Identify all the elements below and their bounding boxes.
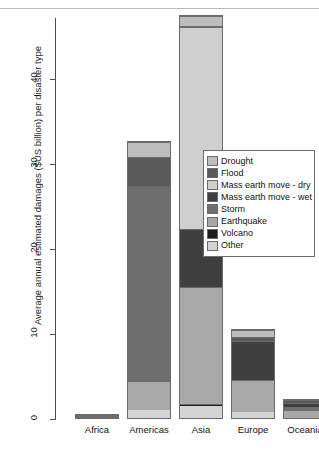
y-tick-label-20: 20: [28, 235, 39, 261]
legend-item-label: Drought: [221, 156, 253, 167]
legend-item-mass-earth-move-dry[interactable]: Mass earth move - dry: [207, 179, 311, 191]
legend-item-earthquake[interactable]: Earthquake: [207, 215, 311, 227]
legend-item-label: Mass earth move - dry: [221, 180, 311, 191]
bar-segment-asia-earthquake: [180, 287, 222, 405]
bar-segment-oceania-earthquake: [284, 411, 319, 418]
legend-swatch-icon: [207, 192, 218, 202]
bar-segment-asia-other: [180, 406, 222, 418]
bar-segment-africa-storm: [76, 416, 118, 418]
bar-segment-europe-earthquake: [232, 380, 274, 412]
bar-segment-americas-flood: [128, 157, 170, 186]
legend-item-mass-earth-move-wet[interactable]: Mass earth move - wet: [207, 191, 311, 203]
chart-canvas: Average annual estimated damages ($US bi…: [0, 0, 319, 453]
legend-swatch-icon: [207, 229, 218, 239]
legend-item-label: Earthquake: [221, 216, 267, 227]
y-tick-label-0: 0: [28, 405, 39, 431]
y-tick-label-30: 30: [28, 150, 39, 176]
x-axis-label-oceania: Oceania: [270, 424, 319, 435]
legend-item-other[interactable]: Other: [207, 240, 311, 252]
bar-africa[interactable]: [75, 414, 119, 419]
legend-swatch-icon: [207, 217, 218, 227]
legend-item-label: Mass earth move - wet: [221, 192, 312, 203]
legend-item-label: Other: [221, 240, 244, 251]
legend-item-label: Storm: [221, 204, 245, 215]
bar-segment-europe-drought: [232, 330, 274, 337]
legend-item-drought[interactable]: Drought: [207, 155, 311, 167]
bar-segment-americas-drought: [128, 142, 170, 157]
y-tick-label-40: 40: [28, 65, 39, 91]
bar-segment-americas-earthquake: [128, 381, 170, 411]
bar-segment-americas-storm: [128, 186, 170, 381]
bar-europe[interactable]: [231, 329, 275, 419]
bar-segment-europe-mass-earth-move-wet: [232, 341, 274, 380]
legend-item-storm[interactable]: Storm: [207, 203, 311, 215]
bar-segment-asia-drought: [180, 16, 222, 25]
legend-swatch-icon: [207, 180, 218, 190]
y-tick-label-10: 10: [28, 320, 39, 346]
legend-swatch-icon: [207, 168, 218, 178]
bar-oceania[interactable]: [283, 399, 319, 419]
legend-swatch-icon: [207, 156, 218, 166]
legend-item-flood[interactable]: Flood: [207, 167, 311, 179]
chart-legend: DroughtFloodMass earth move - dryMass ea…: [203, 150, 315, 257]
legend-swatch-icon: [207, 241, 218, 251]
bar-segment-americas-other: [128, 410, 170, 418]
bar-americas[interactable]: [127, 141, 171, 419]
legend-item-label: Volcano: [221, 228, 253, 239]
bar-segment-europe-other: [232, 412, 274, 418]
legend-item-label: Flood: [221, 168, 244, 179]
legend-item-volcano[interactable]: Volcano: [207, 228, 311, 240]
legend-swatch-icon: [207, 204, 218, 214]
